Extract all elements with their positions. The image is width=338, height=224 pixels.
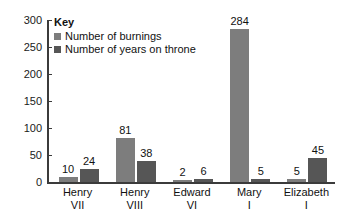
x-axis-line [47, 182, 335, 184]
y-axis-tick-label: 100 [2, 123, 42, 134]
bar-group: 1024 [49, 20, 106, 182]
x-axis-label: ElizabethI [270, 186, 338, 212]
y-axis-tick-label: 150 [2, 96, 42, 107]
bar-value-label: 45 [302, 145, 333, 156]
bar-group: 545 [278, 20, 335, 182]
bar-value-label: 81 [110, 125, 141, 136]
bar [59, 177, 78, 182]
bar-value-label: 38 [131, 148, 162, 159]
bar-group: 2845 [221, 20, 278, 182]
bar-value-label: 284 [224, 16, 255, 27]
bar-group: 26 [163, 20, 220, 182]
bar [287, 179, 306, 182]
bar [116, 138, 135, 182]
y-axis-tick-label: 50 [2, 150, 42, 161]
bar-chart: 050100150200250300 Key Number of burning… [0, 0, 338, 224]
bar [251, 179, 270, 182]
y-axis-tick-label: 300 [2, 15, 42, 26]
bar [194, 179, 213, 182]
bar-value-label: 6 [188, 166, 219, 177]
bar [230, 29, 249, 182]
bar-group: 8138 [106, 20, 163, 182]
bar [137, 161, 156, 182]
bar-value-label: 24 [74, 156, 105, 167]
plot-area: 10248138262845545 [49, 20, 335, 182]
bar [173, 180, 192, 182]
bar-value-label: 5 [245, 166, 276, 177]
y-axis-tick-label: 250 [2, 42, 42, 53]
bar [308, 158, 327, 182]
y-axis-tick-label: 0 [2, 177, 42, 188]
bar [80, 169, 99, 182]
y-axis-tick-label: 200 [2, 69, 42, 80]
